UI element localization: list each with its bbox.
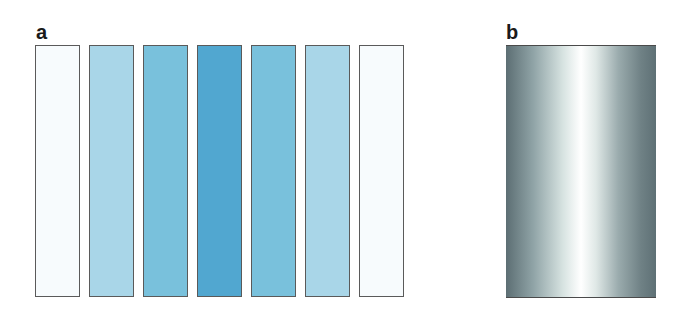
shade-bar-7 (359, 45, 404, 297)
shade-bar-1 (35, 45, 80, 297)
shade-bar-6 (305, 45, 350, 297)
shade-bar-2 (89, 45, 134, 297)
panel-b-label: b (506, 22, 518, 42)
shade-bar-4 (197, 45, 242, 297)
panel-b-cylinder-gradient (506, 45, 656, 298)
panel-a-label: a (36, 22, 47, 42)
shade-bar-5 (251, 45, 296, 297)
shade-bar-3 (143, 45, 188, 297)
